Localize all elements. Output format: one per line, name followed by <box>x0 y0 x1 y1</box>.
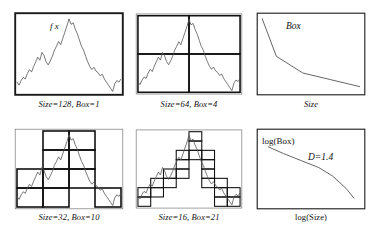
panel-size-64-canvas <box>135 12 243 96</box>
panel-size-32 <box>14 128 124 210</box>
panel-size-16 <box>135 128 243 210</box>
y-axis-label: Box <box>286 21 302 31</box>
caption-size-128: Size=128, Box=1 <box>4 99 134 109</box>
y-axis-label: log(Box) <box>262 136 295 146</box>
panel-box-vs-size-canvas: Box <box>256 12 366 96</box>
panel-size-128: f x <box>14 12 124 96</box>
panel-log-log: log(Box) D=1.4 <box>256 128 366 210</box>
panel-size-64 <box>135 12 243 96</box>
panel-box-vs-size: Box <box>256 12 366 96</box>
caption-size-64: Size=64, Box=4 <box>126 99 252 109</box>
dimension-annotation: D=1.4 <box>307 152 333 162</box>
panel-size-16-canvas <box>135 128 243 210</box>
panel-log-log-canvas: log(Box) D=1.4 <box>256 128 366 210</box>
x-axis-label-size: Size <box>256 99 366 109</box>
panel-size-32-canvas <box>14 128 124 210</box>
caption-size-32: Size=32, Box=10 <box>4 212 134 222</box>
plot-frame <box>257 13 365 95</box>
figure-root: f x Size=128, Box=1 Size=64, Box=4 Box S… <box>0 0 377 236</box>
fx-label: f x <box>50 21 59 31</box>
panel-size-128-canvas: f x <box>14 12 124 96</box>
x-axis-label-log-size: log(Size) <box>256 212 366 222</box>
caption-size-16: Size=16, Box=21 <box>126 212 252 222</box>
